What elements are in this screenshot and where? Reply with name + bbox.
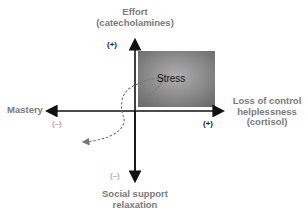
- left-axis-sign: (–): [52, 119, 62, 128]
- bottom-axis-label: Social support relaxation: [90, 189, 180, 210]
- bottom-axis-label-line1: Social support: [90, 189, 180, 200]
- bottom-axis-sign: (–): [110, 171, 120, 180]
- right-axis-sign: (+): [203, 119, 213, 128]
- bottom-axis-label-line2: relaxation: [90, 200, 180, 211]
- left-axis-label: Mastery: [7, 105, 43, 116]
- top-axis-sign: (+): [107, 40, 117, 49]
- top-axis-label-line2: (catecholamines): [90, 18, 180, 29]
- top-axis-label-line1: Effort: [90, 7, 180, 18]
- right-axis-label-line1: Loss of control: [226, 96, 308, 107]
- right-axis-label: Loss of control helplessness (cortisol): [226, 96, 308, 128]
- top-axis-label: Effort (catecholamines): [90, 7, 180, 28]
- stress-label: Stress: [157, 73, 185, 84]
- right-axis-label-line3: (cortisol): [226, 117, 308, 128]
